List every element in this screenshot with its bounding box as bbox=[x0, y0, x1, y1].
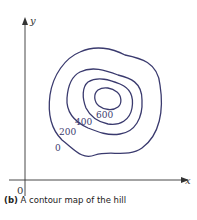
contour-label-200: 200 bbox=[59, 127, 76, 137]
contour-0 bbox=[49, 48, 161, 156]
contour-lines bbox=[49, 48, 161, 156]
y-axis-label: y bbox=[29, 15, 36, 26]
contour-map-figure: y x 0 600 400 200 0 bbox=[0, 0, 197, 220]
x-axis-label: x bbox=[185, 175, 191, 186]
caption-tag: (b) bbox=[4, 195, 18, 205]
caption-text: A contour map of the hill bbox=[18, 195, 126, 205]
contour-label-400: 400 bbox=[75, 117, 92, 127]
contour-label-600: 600 bbox=[96, 110, 113, 120]
y-axis-arrow-icon bbox=[22, 17, 28, 25]
contour-600 bbox=[95, 88, 121, 110]
figure-caption: (b) A contour map of the hill bbox=[4, 195, 126, 205]
contour-label-0: 0 bbox=[55, 143, 61, 153]
